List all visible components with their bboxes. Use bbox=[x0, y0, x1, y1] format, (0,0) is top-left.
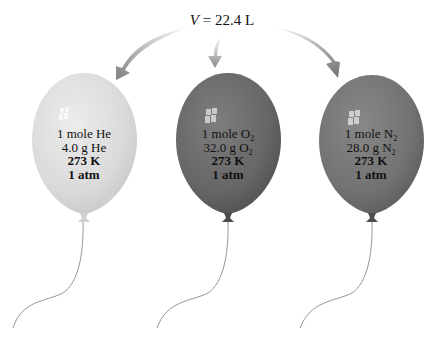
o2-mass: 32.0 g O2 bbox=[173, 141, 283, 155]
o2-string bbox=[157, 220, 228, 328]
n2-mass: 28.0 g N2 bbox=[316, 141, 426, 155]
n2-temperature: 273 K bbox=[316, 154, 426, 168]
he-moles: 1 mole He bbox=[29, 127, 139, 141]
o2-label: 1 mole O2 32.0 g O2 273 K 1 atm bbox=[173, 127, 283, 181]
he-string bbox=[13, 220, 83, 328]
volume-variable: V bbox=[190, 12, 199, 28]
o2-pressure: 1 atm bbox=[173, 168, 283, 182]
o2-moles: 1 mole O2 bbox=[173, 127, 283, 141]
volume-label: V = 22.4 L bbox=[0, 12, 444, 29]
o2-temperature: 273 K bbox=[173, 154, 283, 168]
arrow-to-he bbox=[116, 27, 190, 80]
he-mass: 4.0 g He bbox=[29, 141, 139, 155]
arrow-to-o2 bbox=[208, 36, 222, 68]
volume-value: = 22.4 L bbox=[199, 12, 254, 28]
n2-pressure: 1 atm bbox=[316, 168, 426, 182]
n2-label: 1 mole N2 28.0 g N2 273 K 1 atm bbox=[316, 127, 426, 181]
n2-string bbox=[300, 220, 372, 328]
he-temperature: 273 K bbox=[29, 154, 139, 168]
he-label: 1 mole He 4.0 g He 273 K 1 atm bbox=[29, 127, 139, 181]
arrow-to-n2 bbox=[270, 27, 340, 78]
n2-moles: 1 mole N2 bbox=[316, 127, 426, 141]
he-pressure: 1 atm bbox=[29, 168, 139, 182]
